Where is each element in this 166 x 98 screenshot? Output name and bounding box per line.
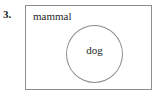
diagram-page: 3. mammal dog (0, 0, 166, 98)
question-number: 3. (3, 8, 21, 20)
universe-set-label: mammal (33, 10, 72, 23)
subset-label: dog (66, 44, 123, 57)
